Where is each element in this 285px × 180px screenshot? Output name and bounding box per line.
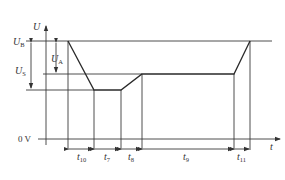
zero-volt-label: 0 V bbox=[18, 134, 32, 144]
t7-label: t7 bbox=[104, 151, 111, 163]
voltage-waveform bbox=[68, 41, 250, 90]
t8-label: t8 bbox=[128, 151, 134, 163]
t11-label: t11 bbox=[237, 151, 246, 163]
ua-label: UA bbox=[51, 53, 63, 65]
x-axis-label: t bbox=[270, 141, 273, 152]
us-label: US bbox=[15, 65, 26, 77]
t10-label: t10 bbox=[77, 151, 86, 163]
waveform-diagram: U t UB US UA 0 V t10 t7 t8 t9 t11 bbox=[0, 0, 285, 180]
y-axis-label: U bbox=[33, 21, 41, 32]
t9-label: t9 bbox=[183, 151, 189, 163]
ub-label: UB bbox=[13, 36, 25, 48]
